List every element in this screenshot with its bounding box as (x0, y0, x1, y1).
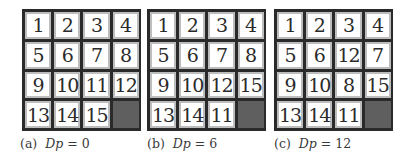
tile: 5 (150, 42, 176, 69)
tile: 3 (208, 12, 234, 39)
tile: 4 (113, 12, 139, 39)
tile: 7 (365, 42, 391, 69)
tile: 2 (54, 12, 80, 39)
tile: 8 (238, 42, 264, 69)
tile: 9 (150, 72, 176, 99)
caption-label: (a) (20, 136, 37, 151)
tile: 9 (277, 72, 303, 99)
tile: 12 (335, 42, 361, 69)
tile: 6 (179, 42, 205, 69)
tile: 14 (54, 101, 80, 128)
tile: 13 (150, 101, 176, 128)
tile: 8 (335, 72, 361, 99)
tile: 6 (54, 42, 80, 69)
tile: 4 (238, 12, 264, 39)
tile: 13 (25, 101, 51, 128)
caption-variable: Dp (45, 136, 63, 151)
puzzle-panel-c: 1 2 3 4 5 6 12 7 9 10 8 15 13 14 11 (274, 9, 393, 131)
tile: 12 (208, 72, 234, 99)
tile: 3 (335, 12, 361, 39)
tile: 5 (25, 42, 51, 69)
caption-variable: Dp (299, 136, 317, 151)
tile: 2 (306, 12, 332, 39)
blank-tile (238, 101, 264, 128)
tile: 15 (83, 101, 109, 128)
tile: 14 (306, 101, 332, 128)
puzzle-panel-b: 1 2 3 4 5 6 7 8 9 10 12 15 13 14 11 (147, 9, 266, 131)
caption-b: (b) Dp = 6 (147, 136, 217, 151)
tile: 2 (179, 12, 205, 39)
tile: 10 (306, 72, 332, 99)
puzzle-panel-a: 1 2 3 4 5 6 7 8 9 10 11 12 13 14 15 (22, 9, 141, 131)
tile: 10 (54, 72, 80, 99)
tile: 3 (83, 12, 109, 39)
tile: 1 (277, 12, 303, 39)
tile: 9 (25, 72, 51, 99)
blank-tile (365, 101, 391, 128)
tile: 7 (83, 42, 109, 69)
caption-c: (c) Dp = 12 (274, 136, 351, 151)
puzzle-grid-c: 1 2 3 4 5 6 12 7 9 10 8 15 13 14 11 (274, 9, 393, 131)
tile: 5 (277, 42, 303, 69)
tile: 11 (335, 101, 361, 128)
tile: 4 (365, 12, 391, 39)
tile: 12 (113, 72, 139, 99)
tile: 6 (306, 42, 332, 69)
tile: 7 (208, 42, 234, 69)
tile: 8 (113, 42, 139, 69)
tile: 15 (365, 72, 391, 99)
puzzle-grid-b: 1 2 3 4 5 6 7 8 9 10 12 15 13 14 11 (147, 9, 266, 131)
caption-value: = 0 (67, 136, 89, 151)
tile: 15 (238, 72, 264, 99)
tile: 14 (179, 101, 205, 128)
tile: 13 (277, 101, 303, 128)
tile: 1 (25, 12, 51, 39)
caption-label: (c) (274, 136, 291, 151)
tile: 11 (83, 72, 109, 99)
caption-a: (a) Dp = 0 (20, 136, 90, 151)
caption-value: = 6 (195, 136, 217, 151)
puzzle-grid-a: 1 2 3 4 5 6 7 8 9 10 11 12 13 14 15 (22, 9, 141, 131)
tile: 10 (179, 72, 205, 99)
tile: 11 (208, 101, 234, 128)
caption-label: (b) (147, 136, 165, 151)
tile: 1 (150, 12, 176, 39)
blank-tile (113, 101, 139, 128)
caption-variable: Dp (173, 136, 191, 151)
caption-value: = 12 (321, 136, 351, 151)
